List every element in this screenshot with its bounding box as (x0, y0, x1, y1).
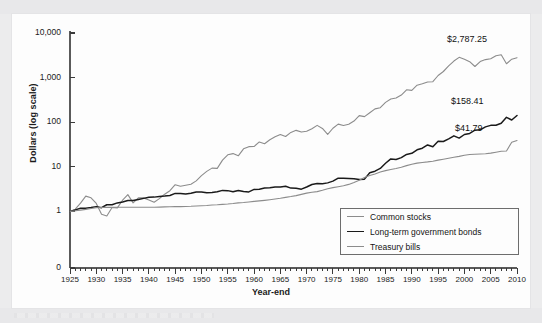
legend-item-long-term-government-bonds: Long-term government bonds (341, 224, 518, 239)
legend-label-long-term-government-bonds: Long-term government bonds (370, 227, 482, 237)
y-tick-label-10,000: 10,000 (12, 27, 61, 37)
end-value-label-common-stocks: $2,787.25 (447, 34, 487, 44)
legend-swatch-long-term-government-bonds (347, 231, 364, 232)
legend-swatch-treasury-bills (347, 246, 364, 247)
y-tick-label-10: 10 (12, 161, 61, 171)
series-line-treasury-bills (70, 140, 517, 211)
series-line-common-stocks (70, 55, 517, 216)
chart-svg (12, 14, 530, 308)
y-tick-label-0: 0 (12, 262, 61, 272)
end-value-label-long-term-government-bonds: $158.41 (451, 96, 484, 106)
y-tick-label-100: 100 (12, 116, 61, 126)
chart-series-layer (70, 55, 517, 216)
chart-panel: Dollars (log scale) Year-end 10,0001,000… (12, 14, 530, 308)
y-tick-label-1,000: 1,000 (12, 72, 61, 82)
scan-artifact-caption-ghost (14, 313, 214, 318)
legend-item-common-stocks: Common stocks (341, 209, 518, 224)
series-line-long-term-government-bonds (70, 115, 517, 211)
legend-swatch-common-stocks (347, 216, 364, 217)
x-tick-label-2010: 2010 (501, 275, 533, 284)
chart-legend: Common stocks Long-term government bonds… (340, 208, 519, 255)
screenshot-root: Dollars (log scale) Year-end 10,0001,000… (0, 0, 542, 323)
legend-label-common-stocks: Common stocks (370, 212, 431, 222)
legend-label-treasury-bills: Treasury bills (370, 242, 420, 252)
chart-plot-area: Dollars (log scale) Year-end 10,0001,000… (12, 14, 530, 308)
end-value-label-treasury-bills: $41.79 (455, 123, 483, 133)
legend-item-treasury-bills: Treasury bills (341, 239, 518, 254)
y-tick-label-1: 1 (12, 205, 61, 215)
scan-artifact-top (0, 0, 542, 14)
